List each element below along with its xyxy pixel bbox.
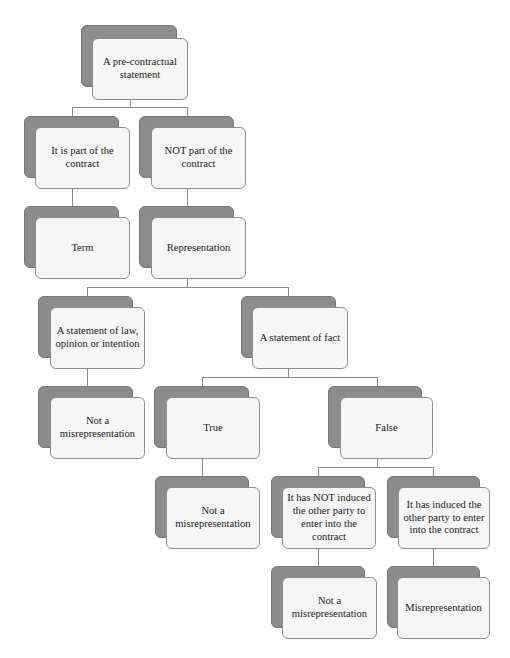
connector [202,377,378,378]
node-box: Representation [151,217,246,279]
connector [72,188,73,206]
node-label: A statement of law, opinion or intention [55,325,140,351]
node-box: Not a misrepresentation [50,397,145,459]
connector [318,548,319,566]
connector [87,369,88,386]
node-box: A pre-contractual statement [92,38,188,100]
node-label: Term [71,242,93,255]
node-label: True [203,422,223,435]
node-label: Not a misrepresentation [171,505,255,531]
node-label: Not a misrepresentation [55,415,140,441]
node-label: Not a misrepresentation [287,595,372,621]
connector [72,107,187,108]
node-label: Misrepresentation [405,602,482,615]
node-box: Term [35,217,130,279]
connector [288,369,289,377]
node-label: It is part of the contract [40,145,125,171]
node-box: It has induced the other party to enter … [398,487,490,549]
decision-tree-diagram: A pre-contractual statement It is part o… [0,0,510,658]
node-box: It is part of the contract [35,127,130,189]
node-label: Representation [167,242,231,255]
node-box: NOT part of the contract [151,127,246,189]
node-box: Not a misrepresentation [166,487,260,549]
connector [87,287,289,288]
node-label: False [375,422,397,435]
node-label: A statement of fact [260,332,340,345]
connector [433,548,434,566]
connector [377,458,378,467]
node-box: False [340,397,433,459]
node-label: NOT part of the contract [156,145,241,171]
node-box: It has NOT induced the other party to en… [282,487,376,549]
node-box: Misrepresentation [397,577,490,639]
connector [187,188,188,206]
connector [202,458,203,476]
node-label: It has induced the other party to enter … [403,499,485,538]
node-box: A statement of fact [252,307,348,369]
connector [187,279,188,287]
node-box: True [166,397,260,459]
node-label: A pre-contractual statement [97,56,183,82]
node-label: It has NOT induced the other party to en… [285,492,373,544]
node-box: Not a misrepresentation [282,577,377,639]
node-box: A statement of law, opinion or intention [50,307,145,369]
connector [318,467,434,468]
